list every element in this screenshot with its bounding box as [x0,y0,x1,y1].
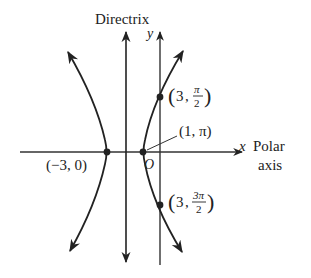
polar-label: Polar [253,138,285,154]
svg-text:): ) [207,189,214,214]
point-3-pi-over-2 [157,94,164,101]
point-neg3-0 [104,149,111,156]
svg-text:2: 2 [196,203,202,215]
label-3-pi-over-2: ( 3 , π 2 ) [168,83,211,109]
y-axis-label: y [145,26,154,41]
svg-text:3: 3 [176,194,184,210]
svg-text:3π: 3π [192,189,205,201]
svg-text:π: π [194,83,200,95]
svg-text:3: 3 [176,88,184,104]
svg-text:2: 2 [194,97,200,109]
leader-line-1-pi [147,136,177,150]
point-1-pi [140,149,147,156]
directrix-label: Directrix [95,11,150,27]
label-neg3-0: (−3, 0) [46,157,87,174]
svg-text:,: , [185,194,189,210]
point-3-3pi-over-2 [157,202,164,209]
svg-text:(: ( [168,189,175,214]
hyperbola-diagram: Directrix y x Polar axis O (−3, 0) (1, π… [0,0,311,278]
svg-text:,: , [185,88,189,104]
x-axis-label: x [238,138,246,154]
label-1-pi: (1, π) [179,123,212,140]
svg-text:(: ( [168,83,175,108]
origin-label: O [144,157,154,172]
svg-text:): ) [204,83,211,108]
axis-label: axis [258,157,282,173]
label-3-3pi-over-2: ( 3 , 3π 2 ) [168,189,214,215]
